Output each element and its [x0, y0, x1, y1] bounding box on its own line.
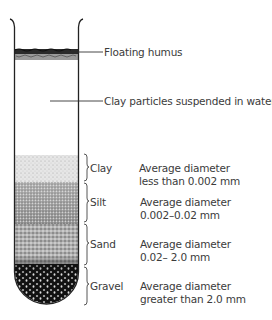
- clay-description-line2: less than 0.002 mm: [139, 175, 240, 188]
- layer-clay: [14, 155, 80, 183]
- floating-humus: [14, 49, 80, 60]
- clay-description-line1: Average diameter: [139, 162, 230, 175]
- silt-description-line1: Average diameter: [140, 196, 231, 209]
- layer-braces: [84, 154, 89, 305]
- label-floating-humus: Floating humus: [104, 46, 182, 58]
- layer-name-sand: Sand: [90, 238, 116, 250]
- gravel-description-line2: greater than 2.0 mm: [140, 293, 246, 306]
- sand-description-line1: Average diameter: [140, 238, 231, 251]
- gravel-description-line1: Average diameter: [140, 280, 231, 293]
- label-suspended-clay: Clay particles suspended in water: [104, 95, 272, 107]
- layer-name-gravel: Gravel: [90, 280, 123, 292]
- silt-description-line2: 0.002–0.02 mm: [140, 209, 220, 222]
- sand-description-line2: 0.02– 2.0 mm: [140, 251, 210, 264]
- layer-name-clay: Clay: [90, 162, 112, 174]
- layer-name-silt: Silt: [90, 196, 106, 208]
